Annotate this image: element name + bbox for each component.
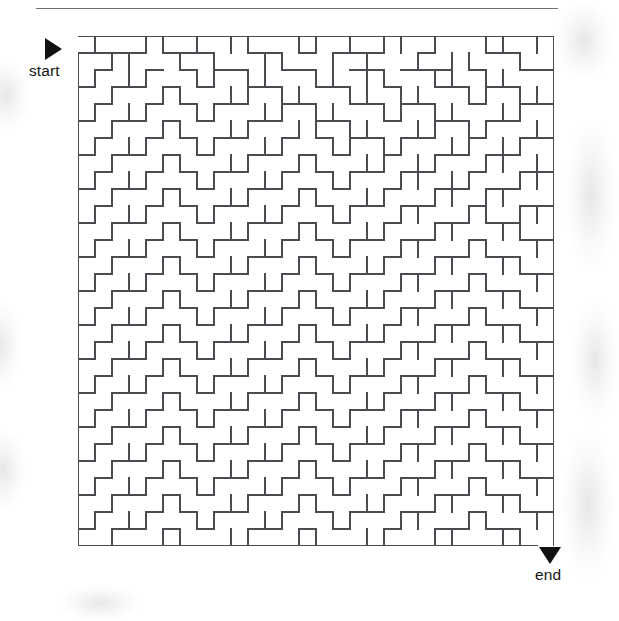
scan-artifact	[565, 120, 617, 270]
scan-artifact	[561, 430, 615, 580]
triangle-down-icon	[539, 547, 561, 564]
triangle-right-icon	[45, 38, 62, 60]
scan-artifact	[555, 2, 613, 80]
scan-artifact	[0, 430, 26, 510]
maze-wall-group	[78, 36, 554, 546]
header-divider-rule	[36, 8, 558, 9]
scan-artifact	[60, 585, 140, 621]
start-label: start	[29, 62, 60, 80]
end-label: end	[535, 566, 561, 584]
scan-artifact	[571, 300, 619, 420]
scan-artifact	[0, 60, 30, 130]
maze-walls-svg	[78, 36, 554, 546]
maze-grid	[78, 36, 554, 546]
scan-artifact	[0, 300, 22, 390]
